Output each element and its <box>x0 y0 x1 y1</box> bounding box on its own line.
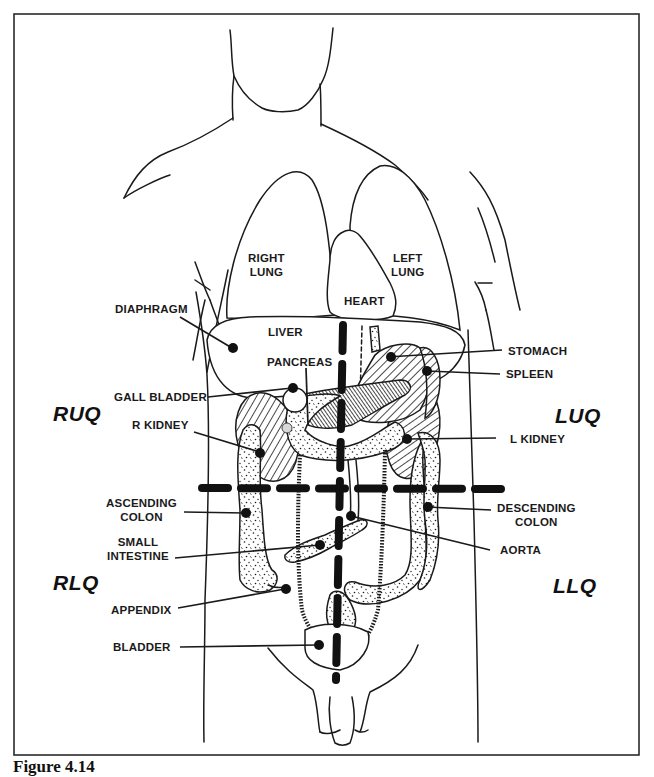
label-ascending-colon: ASCENDING COLON <box>106 496 177 524</box>
quadrant-luq: LUQ <box>555 404 601 428</box>
label-heart: HEART <box>344 294 385 308</box>
figure-caption: Figure 4.14 <box>13 757 95 777</box>
quadrant-llq: LLQ <box>553 574 597 598</box>
label-left-lung: LEFT LUNG <box>391 251 424 279</box>
label-pancreas: PANCREAS <box>267 355 332 369</box>
left-ureter <box>364 450 385 640</box>
label-bladder: BLADDER <box>113 640 171 654</box>
label-small-intestine: SMALL INTESTINE <box>107 535 169 563</box>
small-intestine <box>285 520 367 563</box>
label-l-kidney: L KIDNEY <box>510 432 565 446</box>
label-appendix: APPENDIX <box>111 603 171 617</box>
right-lung <box>227 172 335 319</box>
label-aorta: AORTA <box>500 543 541 557</box>
quadrant-rlq: RLQ <box>53 571 99 595</box>
label-descending-colon: DESCENDING COLON <box>497 501 576 529</box>
label-stomach: STOMACH <box>508 344 567 358</box>
label-r-kidney: R KIDNEY <box>132 418 189 432</box>
label-liver: LIVER <box>268 325 303 339</box>
label-right-lung: RIGHT LUNG <box>248 251 285 279</box>
label-diaphragm: DIAPHRAGM <box>115 302 188 316</box>
label-spleen: SPLEEN <box>506 367 553 381</box>
quadrant-ruq: RUQ <box>53 402 101 426</box>
label-gall-bladder: GALL BLADDER <box>114 390 207 404</box>
